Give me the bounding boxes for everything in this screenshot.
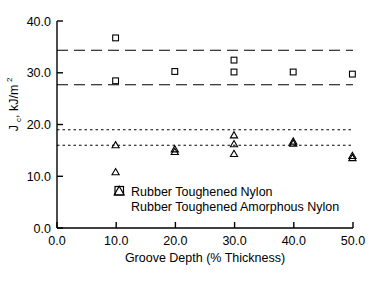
x-tick-label-30: 30.0 bbox=[222, 234, 246, 248]
x-tick-label-20: 20.0 bbox=[163, 234, 187, 248]
data-point-triangle bbox=[230, 150, 237, 156]
band-lines-nylon bbox=[57, 50, 353, 84]
x-axis-title: Groove Depth (% Thickness) bbox=[125, 251, 285, 265]
data-point-triangle bbox=[230, 141, 237, 147]
legend-label-nylon: Rubber Toughened Nylon bbox=[131, 185, 273, 199]
x-tick-label-0: 0.0 bbox=[48, 234, 65, 248]
y-tick-label-30: 30.0 bbox=[27, 66, 51, 80]
y-axis-title-superscript: 2 bbox=[5, 77, 14, 82]
data-point-triangle bbox=[112, 169, 119, 175]
chart-legend: Rubber Toughened Nylon Rubber Toughened … bbox=[114, 185, 339, 214]
y-tick-label-10: 10.0 bbox=[27, 170, 51, 184]
y-tick-label-20: 20.0 bbox=[27, 118, 51, 132]
x-tick-label-10: 10.0 bbox=[104, 234, 128, 248]
data-point-square bbox=[172, 69, 178, 75]
data-point-square bbox=[231, 57, 237, 63]
y-axis-title-rest: , kJ/m bbox=[7, 85, 21, 118]
band-lines-amorphous bbox=[57, 130, 353, 146]
data-point-square bbox=[113, 35, 119, 41]
y-axis-title: J c , kJ/m 2 bbox=[5, 77, 23, 131]
data-points-nylon bbox=[113, 35, 356, 84]
x-tick-label-50: 50.0 bbox=[341, 234, 365, 248]
data-point-square bbox=[113, 78, 119, 84]
data-point-triangle bbox=[230, 132, 237, 138]
x-axis-ticks bbox=[57, 222, 353, 228]
data-point-square bbox=[290, 69, 296, 75]
scatter-plot: 40.0 30.0 20.0 10.0 0.0 0.0 10.0 20.0 30… bbox=[0, 0, 377, 283]
y-tick-label-40: 40.0 bbox=[27, 15, 51, 29]
data-point-square bbox=[231, 69, 237, 75]
x-tick-label-40: 40.0 bbox=[282, 234, 306, 248]
chart-figure: 40.0 30.0 20.0 10.0 0.0 0.0 10.0 20.0 30… bbox=[0, 0, 377, 283]
y-axis-title-main: J bbox=[7, 125, 21, 131]
data-points-amorphous bbox=[112, 132, 356, 175]
y-axis-ticks bbox=[57, 21, 63, 228]
legend-marker-triangle-icon bbox=[114, 186, 124, 195]
legend-label-amorphous: Rubber Toughened Amorphous Nylon bbox=[131, 200, 339, 214]
data-point-square bbox=[350, 71, 356, 77]
